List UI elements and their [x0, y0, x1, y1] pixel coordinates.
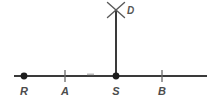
faint-tick: [87, 74, 94, 76]
point-label-d: D: [127, 6, 134, 16]
point-label-a: A: [61, 86, 69, 97]
point-label-s: S: [112, 86, 119, 97]
point-label-r: R: [20, 86, 28, 97]
point-label-b: B: [158, 86, 166, 97]
point-dot-r: [21, 73, 28, 80]
geometry-figure: R A S B D: [0, 0, 221, 99]
diagram-canvas: [0, 0, 221, 99]
point-dot-s: [113, 73, 120, 80]
